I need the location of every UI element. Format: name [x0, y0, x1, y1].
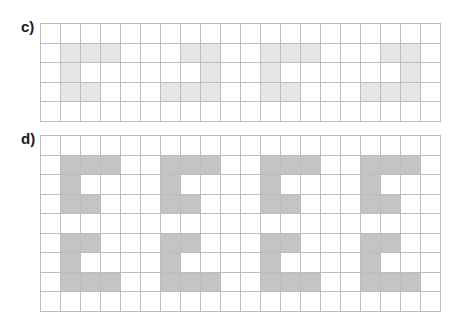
- grid-cell: [261, 136, 281, 156]
- grid-cell: [401, 195, 421, 215]
- grid-cell: [181, 24, 201, 44]
- grid-cell: [121, 195, 141, 215]
- grid-cell: [121, 253, 141, 273]
- grid-cell: [101, 175, 121, 195]
- grid-cell: [181, 214, 201, 234]
- grid-cell: [181, 63, 201, 83]
- shape-cell: [401, 156, 421, 176]
- grid-cell: [381, 63, 401, 83]
- grid-cell: [421, 234, 441, 254]
- grid-cell: [361, 24, 381, 44]
- grid-cell: [321, 253, 341, 273]
- grid-cell: [421, 253, 441, 273]
- grid-cell: [101, 102, 121, 122]
- shape-cell: [81, 195, 101, 215]
- grid-cell: [341, 214, 361, 234]
- grid-cell: [401, 102, 421, 122]
- grid-cell: [221, 63, 241, 83]
- grid-cell: [221, 156, 241, 176]
- grid-cell: [341, 175, 361, 195]
- shape-cell: [201, 273, 221, 293]
- grid-cell: [341, 102, 361, 122]
- shape-cell: [181, 273, 201, 293]
- shape-cell: [261, 44, 281, 64]
- shape-cell: [281, 44, 301, 64]
- grid-cell: [321, 292, 341, 312]
- grid-cell: [341, 44, 361, 64]
- grid-cell: [141, 63, 161, 83]
- shape-cell: [281, 83, 301, 103]
- grid-cell: [121, 175, 141, 195]
- grid-cell: [41, 63, 61, 83]
- grid-cell: [141, 83, 161, 103]
- grid-cell: [101, 292, 121, 312]
- grid-cell: [161, 63, 181, 83]
- grid-cell: [121, 292, 141, 312]
- grid-cell: [121, 102, 141, 122]
- grid-cell: [101, 214, 121, 234]
- grid-cell: [81, 136, 101, 156]
- shape-cell: [181, 83, 201, 103]
- grid-cell: [41, 214, 61, 234]
- grid-cell: [301, 63, 321, 83]
- shape-cell: [381, 195, 401, 215]
- grid-cell: [261, 102, 281, 122]
- grid-cell: [161, 44, 181, 64]
- grid-cell: [161, 102, 181, 122]
- grid-cell: [141, 195, 161, 215]
- grid-cell: [101, 83, 121, 103]
- grid-cell: [321, 24, 341, 44]
- grid-cell: [401, 292, 421, 312]
- grid-cell: [81, 175, 101, 195]
- grid-cell: [301, 214, 321, 234]
- grid-cell: [61, 214, 81, 234]
- grid-cell: [201, 24, 221, 44]
- grid-cell: [381, 292, 401, 312]
- grid-cell: [161, 214, 181, 234]
- grid-cell: [421, 175, 441, 195]
- shape-cell: [361, 175, 381, 195]
- grid-cell: [241, 63, 261, 83]
- grid-cell: [221, 175, 241, 195]
- grid-cell: [121, 273, 141, 293]
- grid-cell: [361, 44, 381, 64]
- grid-cell: [221, 44, 241, 64]
- grid-cell: [301, 175, 321, 195]
- grid-cell: [401, 175, 421, 195]
- grid-cell: [81, 253, 101, 273]
- grid-cell: [61, 102, 81, 122]
- grid-cell: [41, 156, 61, 176]
- shape-cell: [161, 175, 181, 195]
- grid-cell: [241, 273, 261, 293]
- grid-cell: [321, 273, 341, 293]
- shape-cell: [61, 156, 81, 176]
- grid-cell: [321, 83, 341, 103]
- grid-cell: [141, 292, 161, 312]
- grid-cell: [241, 175, 261, 195]
- shape-cell: [401, 44, 421, 64]
- grid-cell: [241, 214, 261, 234]
- grid-cell: [241, 102, 261, 122]
- grid-cell: [201, 253, 221, 273]
- grid-cell: [101, 253, 121, 273]
- grid-cell: [121, 83, 141, 103]
- grid-cell: [121, 156, 141, 176]
- shape-cell: [361, 234, 381, 254]
- grid-cell: [181, 102, 201, 122]
- grid-cell: [341, 136, 361, 156]
- grid-cell: [281, 214, 301, 234]
- grid-cell: [101, 24, 121, 44]
- grid-cell: [241, 292, 261, 312]
- shape-cell: [281, 234, 301, 254]
- grid-cell: [321, 195, 341, 215]
- grid-cell: [141, 214, 161, 234]
- grid-cell: [41, 234, 61, 254]
- grid-cell: [421, 273, 441, 293]
- grid-cell: [81, 63, 101, 83]
- grid-cell: [381, 102, 401, 122]
- grid-cell: [401, 253, 421, 273]
- grid-cell: [281, 24, 301, 44]
- grid-cell: [381, 253, 401, 273]
- grid-cell: [361, 214, 381, 234]
- grid-cell: [201, 292, 221, 312]
